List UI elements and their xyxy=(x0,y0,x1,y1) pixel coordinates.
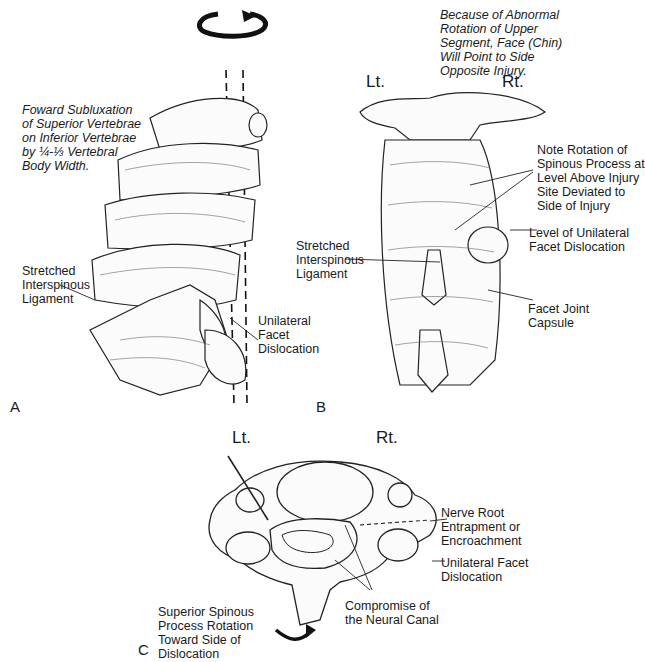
right-side-label-b: Rt. xyxy=(502,72,524,92)
top-note-label: Because of Abnormal Rotation of Upper Se… xyxy=(440,8,562,78)
note-rotation-label: Note Rotation of Spinous Process at Leve… xyxy=(537,143,645,213)
panel-letter-a: A xyxy=(10,398,20,415)
stretched-ligament-label-b: Stretched Interspinous Ligament xyxy=(296,239,364,281)
left-side-label-c: Lt. xyxy=(232,428,251,448)
right-side-label-c: Rt. xyxy=(376,428,398,448)
unilateral-facet-label-a: Unilateral Facet Dislocation xyxy=(258,314,319,356)
unilateral-facet-label-c: Unilateral Facet Dislocation xyxy=(441,556,529,584)
stretched-ligament-label-a: Stretched Interspinous Ligament xyxy=(22,264,90,306)
posterior-spine-drawing xyxy=(360,93,545,392)
rotation-arrow-icon xyxy=(199,10,265,36)
neural-canal-label: Compromise of the Neural Canal xyxy=(345,599,439,627)
level-dislocation-label: Level of Unilateral Facet Dislocation xyxy=(529,226,629,254)
spinous-rotation-label: Superior Spinous Process Rotation Toward… xyxy=(158,605,254,661)
subluxation-label: Foward Subluxation of Superior Vertebrae… xyxy=(22,103,141,173)
spinous-rotation-arrow-icon xyxy=(276,624,316,639)
left-side-label-b: Lt. xyxy=(366,72,385,92)
panel-letter-b: B xyxy=(316,398,326,415)
panel-letter-c: C xyxy=(138,641,149,658)
nerve-root-label: Nerve Root Entrapment or Encroachment xyxy=(441,506,522,548)
facet-capsule-label: Facet Joint Capsule xyxy=(528,302,589,330)
